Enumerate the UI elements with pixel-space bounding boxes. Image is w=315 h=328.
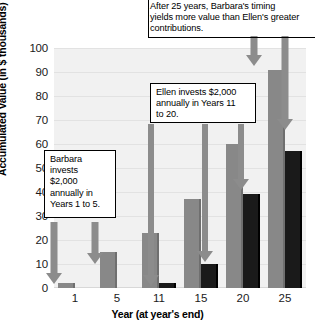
callout-line: $2,000 bbox=[50, 176, 111, 187]
bar-ellen-year-11 bbox=[159, 283, 176, 288]
y-axis-title: Accumulated Value (in $ thousands) bbox=[0, 3, 8, 176]
callout-line: Ellen invests $2,000 bbox=[156, 87, 251, 98]
annotation-arrow-top-ellen25 bbox=[276, 36, 294, 130]
annotation-arrow-ellen-year15 bbox=[196, 124, 214, 262]
callout-line: invests bbox=[50, 165, 111, 176]
x-axis-tick-label: 11 bbox=[153, 292, 165, 304]
x-axis-title: Year (at year's end) bbox=[0, 308, 315, 320]
y-axis-tick-label: 20 bbox=[0, 234, 48, 246]
y-axis-tick-label: 30 bbox=[0, 210, 48, 222]
callout-line: contributions. bbox=[150, 23, 314, 34]
callout-line: Barbara bbox=[50, 154, 111, 165]
callout-line: Years 1 to 5. bbox=[50, 199, 111, 210]
x-axis-tick-label: 5 bbox=[114, 292, 120, 304]
x-axis-tick-label: 25 bbox=[279, 292, 292, 304]
callout-line: to 20. bbox=[156, 109, 251, 120]
annotation-arrow-barbara-year1 bbox=[45, 222, 63, 284]
annotation-arrow-ellen-year20 bbox=[232, 124, 250, 190]
y-axis-tick-label: 40 bbox=[0, 186, 48, 198]
bar-ellen-year-25 bbox=[285, 151, 302, 288]
callout-line: yields more value than Ellen's greater bbox=[150, 12, 314, 23]
callout-top-note: After 25 years, Barbara's timing yields … bbox=[150, 1, 314, 35]
y-axis-tick-label: 10 bbox=[0, 258, 48, 270]
x-axis-tick-label: 20 bbox=[237, 292, 250, 304]
bar-ellen-year-15 bbox=[201, 264, 218, 288]
callout-line: annually in Years 11 bbox=[156, 98, 251, 109]
x-axis-tick-label: 15 bbox=[195, 292, 208, 304]
annotation-arrow-barbara-year5 bbox=[86, 222, 104, 264]
chart-figure: 0102030405060708090100 Accumulated Value… bbox=[0, 0, 315, 328]
callout-barbara-note: Barbara invests $2,000 annually in Years… bbox=[44, 150, 116, 218]
bar-ellen-year-20 bbox=[243, 194, 260, 288]
annotation-arrow-ellen-year11 bbox=[142, 124, 160, 286]
y-axis-tick-label: 0 bbox=[0, 282, 48, 294]
callout-ellen-note: Ellen invests $2,000 annually in Years 1… bbox=[150, 83, 256, 123]
callout-line: After 25 years, Barbara's timing bbox=[150, 1, 314, 12]
gridline bbox=[54, 48, 306, 49]
x-axis-tick-label: 1 bbox=[72, 292, 78, 304]
callout-line: annually in bbox=[50, 188, 111, 199]
annotation-arrow-top-barbara25 bbox=[245, 36, 263, 66]
